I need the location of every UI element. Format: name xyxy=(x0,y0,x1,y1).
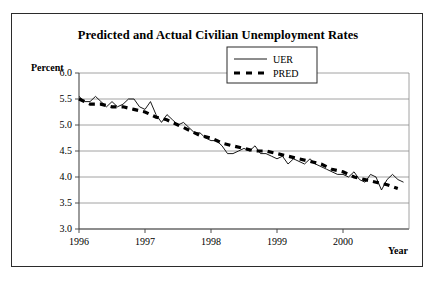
chart-figure: Predicted and Actual Civilian Unemployme… xyxy=(11,13,423,267)
x-tick-label: 1999 xyxy=(267,236,287,247)
y-tick-label: 5.5 xyxy=(60,93,73,104)
x-tick-label: 1996 xyxy=(69,236,89,247)
legend-label-pred: PRED xyxy=(273,68,299,79)
x-tick-label: 2000 xyxy=(333,236,353,247)
y-tick-label: 6.0 xyxy=(60,67,73,78)
y-tick-label: 5.0 xyxy=(60,119,73,130)
y-tick-label: 4.0 xyxy=(60,171,73,182)
x-tick-label: 1997 xyxy=(135,236,155,247)
y-tick-label: 3.0 xyxy=(60,223,73,234)
y-tick-label: 3.5 xyxy=(60,197,73,208)
legend-label-uer: UER xyxy=(273,54,293,65)
y-tick-label: 4.5 xyxy=(60,145,73,156)
chart-canvas: 6.05.55.04.54.03.53.01996199719981999200… xyxy=(12,14,424,268)
legend-box xyxy=(227,47,317,83)
x-tick-label: 1998 xyxy=(201,236,221,247)
plot-area: 6.05.55.04.54.03.53.01996199719981999200… xyxy=(12,14,424,268)
